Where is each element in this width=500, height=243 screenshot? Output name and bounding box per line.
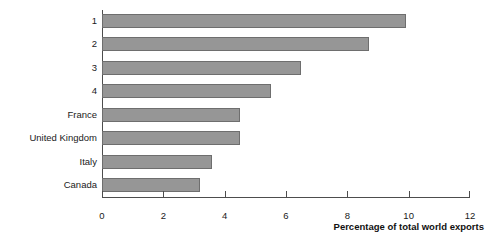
- x-tick-label-10: 10: [389, 210, 429, 221]
- x-tick-label-8: 8: [327, 210, 367, 221]
- x-tick-label-6: 6: [266, 210, 306, 221]
- bar-1: [102, 14, 406, 28]
- category-label-canada: Canada: [0, 180, 97, 190]
- category-label-france: France: [0, 110, 97, 120]
- bar-4: [102, 84, 271, 98]
- x-axis-line: [102, 197, 470, 198]
- bar-chart: 1 2 3 4 France United Kingdom Italy Cana…: [0, 0, 500, 243]
- category-label-united-kingdom: United Kingdom: [0, 133, 97, 143]
- bar-canada: [102, 178, 200, 192]
- x-tick-label-4: 4: [205, 210, 245, 221]
- x-tick-10: [409, 191, 410, 197]
- plot-area: 024681012: [102, 10, 470, 197]
- category-label-italy: Italy: [0, 157, 97, 167]
- x-tick-label-0: 0: [82, 210, 122, 221]
- bar-france: [102, 108, 240, 122]
- bar-united-kingdom: [102, 131, 240, 145]
- category-label-4: 4: [0, 86, 97, 96]
- bar-italy: [102, 155, 212, 169]
- x-tick-8: [347, 191, 348, 197]
- x-tick-0: [102, 191, 103, 197]
- category-label-1: 1: [0, 16, 97, 26]
- x-tick-label-12: 12: [450, 210, 490, 221]
- category-label-3: 3: [0, 63, 97, 73]
- x-tick-6: [286, 191, 287, 197]
- bar-3: [102, 61, 301, 75]
- bar-2: [102, 37, 369, 51]
- x-tick-label-2: 2: [143, 210, 183, 221]
- x-tick-4: [225, 191, 226, 197]
- category-label-2: 2: [0, 39, 97, 49]
- x-axis-title: Percentage of total world exports: [0, 221, 484, 232]
- x-tick-2: [163, 191, 164, 197]
- x-tick-12: [469, 191, 470, 197]
